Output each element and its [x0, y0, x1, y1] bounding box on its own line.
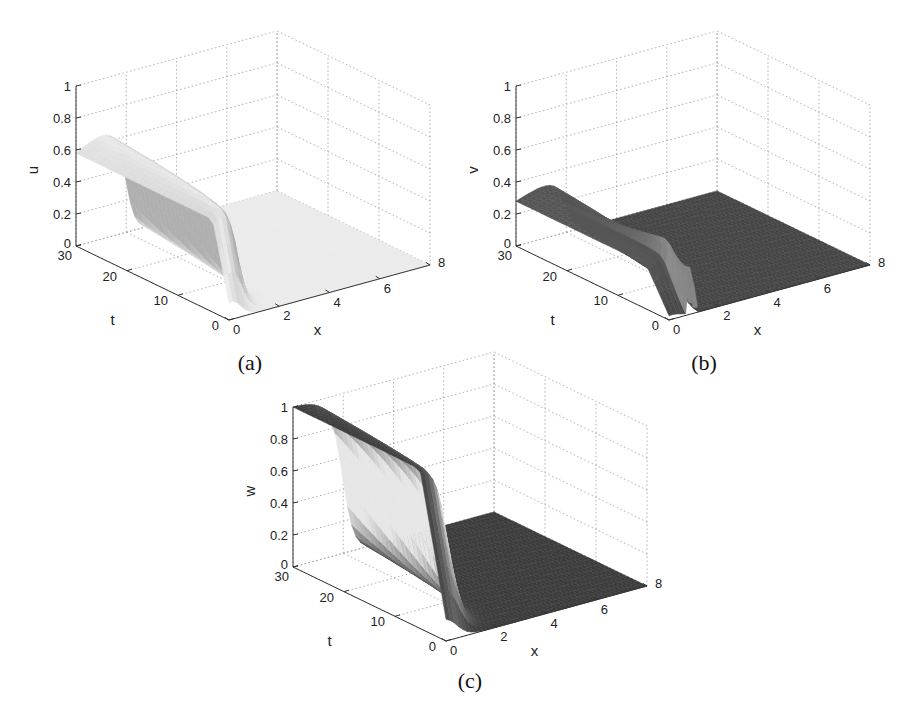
z-tick-label: 0.6: [493, 143, 511, 158]
x-axis-label: x: [314, 321, 322, 338]
t-tick-label: 30: [498, 248, 512, 263]
panel-a-u-surface: 00.20.40.60.81010203002468utx: [24, 31, 445, 338]
z-axis-label: v: [464, 166, 481, 174]
t-tick-label: 30: [58, 248, 72, 263]
t-tick-label: 20: [103, 269, 117, 284]
z-tick-label: 0.8: [270, 432, 288, 447]
t-tick-label: 10: [594, 293, 608, 308]
t-tick-label: 0: [212, 318, 219, 333]
x-tick-label: 2: [500, 629, 507, 644]
z-axis-label: w: [241, 485, 258, 497]
t-tick-label: 0: [429, 639, 436, 654]
x-tick-label: 8: [878, 255, 885, 270]
x-tick-label: 0: [450, 643, 457, 658]
t-tick-label: 10: [371, 614, 385, 629]
t-tick-label: 20: [543, 269, 557, 284]
panel-b-v-surface: 00.20.40.60.81010203002468vtx: [464, 31, 885, 338]
z-tick-label: 0.4: [493, 175, 511, 190]
z-tick-label: 0.6: [270, 464, 288, 479]
t-axis-label: t: [550, 311, 555, 328]
t-tick-label: 0: [652, 318, 659, 333]
z-tick-label: 1: [281, 400, 288, 415]
z-tick-label: 0.2: [53, 207, 71, 222]
z-tick-label: 0.4: [270, 496, 288, 511]
z-axis-label: u: [24, 166, 41, 174]
caption-c: (c): [458, 668, 482, 693]
caption-b: (b): [691, 350, 717, 375]
z-tick-label: 0.8: [493, 111, 511, 126]
x-tick-label: 4: [774, 295, 781, 310]
z-tick-label: 0.2: [270, 528, 288, 543]
z-tick-label: 0.6: [53, 143, 71, 158]
x-axis-label: x: [531, 642, 539, 659]
z-tick-label: 0.2: [493, 207, 511, 222]
figure-canvas: 00.20.40.60.81010203002468utx 00.20.40.6…: [0, 0, 910, 715]
surface-mesh: [76, 135, 430, 312]
x-tick-label: 8: [655, 576, 662, 591]
caption-a: (a): [238, 350, 262, 375]
x-tick-label: 4: [334, 295, 341, 310]
x-tick-label: 0: [673, 322, 680, 337]
x-tick-label: 4: [551, 616, 558, 631]
x-tick-label: 0: [233, 322, 240, 337]
surface-mesh: [516, 185, 870, 315]
z-tick-label: 1: [64, 79, 71, 94]
t-tick-label: 30: [275, 569, 289, 584]
x-tick-label: 8: [438, 255, 445, 270]
t-axis-label: t: [327, 632, 332, 649]
t-axis-label: t: [110, 311, 115, 328]
panel-c-w-surface: 00.20.40.60.81010203002468wtx: [241, 352, 662, 659]
z-tick-label: 0.8: [53, 111, 71, 126]
x-tick-label: 2: [723, 308, 730, 323]
x-axis-label: x: [754, 321, 762, 338]
z-tick-label: 1: [504, 79, 511, 94]
x-tick-label: 2: [283, 308, 290, 323]
x-tick-label: 6: [384, 281, 391, 296]
t-tick-label: 10: [154, 293, 168, 308]
z-tick-label: 0.4: [53, 175, 71, 190]
x-tick-label: 6: [824, 281, 831, 296]
x-tick-label: 6: [601, 602, 608, 617]
t-tick-label: 20: [320, 590, 334, 605]
